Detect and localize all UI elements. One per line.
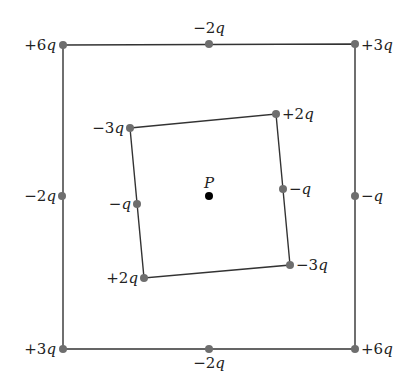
- outer-mid-right-charge-label: −q: [361, 187, 383, 205]
- inner-top-right-charge-label: +2q: [282, 105, 314, 123]
- outer-bottom-left-charge-label: +3q: [24, 340, 56, 358]
- outer-top-left-charge-dot: [59, 41, 67, 49]
- inner-bottom-left-charge-label: +2q: [106, 269, 138, 287]
- outer-bottom-right-charge-dot: [351, 345, 359, 353]
- point-p-label: P: [203, 174, 215, 192]
- outer-top-mid-charge-label: −2q: [193, 19, 225, 37]
- inner-top-left-charge-label: −3q: [92, 119, 124, 137]
- outer-bottom-mid-charge-label: −2q: [193, 354, 225, 372]
- inner-bottom-left-charge-dot: [140, 274, 148, 282]
- inner-top-right-charge-dot: [272, 110, 280, 118]
- outer-top-mid-charge-dot: [205, 40, 213, 48]
- inner-bottom-right-charge-label: −3q: [296, 256, 328, 274]
- point-p-dot: [205, 192, 213, 200]
- outer-top-right-charge-label: +3q: [361, 36, 393, 54]
- outer-bottom-mid-charge-dot: [205, 345, 213, 353]
- outer-mid-right-charge-dot: [351, 192, 359, 200]
- outer-mid-left-charge-dot: [58, 192, 66, 200]
- outer-bottom-left-charge-dot: [59, 345, 67, 353]
- inner-mid-right-charge-dot: [279, 185, 287, 193]
- outer-top-left-charge-label: +6q: [24, 36, 56, 54]
- outer-bottom-right-charge-label: +6q: [361, 340, 393, 358]
- outer-mid-left-charge-label: −2q: [24, 187, 56, 205]
- charge-diagram: +6q−2q+3q−2q−q+3q−2q+6q−3q+2q−q−q+2q−3q …: [0, 0, 408, 381]
- inner-mid-left-charge-label: −q: [109, 195, 131, 213]
- inner-bottom-right-charge-dot: [286, 261, 294, 269]
- inner-top-left-charge-dot: [126, 124, 134, 132]
- inner-mid-left-charge-dot: [133, 200, 141, 208]
- inner-mid-right-charge-label: −q: [289, 180, 311, 198]
- outer-top-right-charge-dot: [351, 40, 359, 48]
